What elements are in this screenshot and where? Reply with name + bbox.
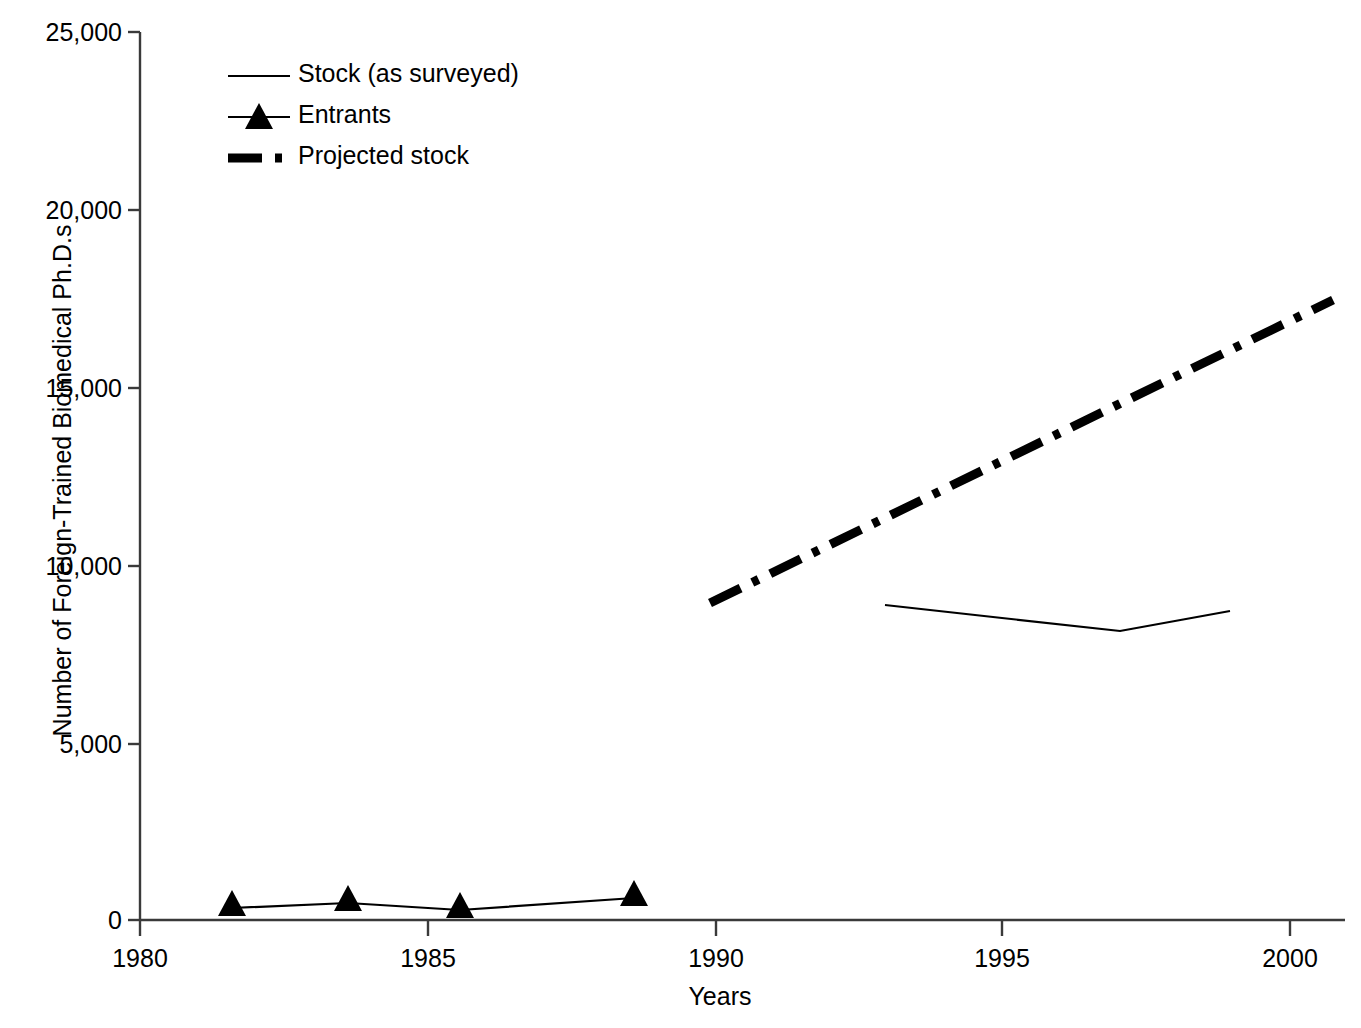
y-tick-label-0: 0	[0, 906, 122, 935]
plot-area	[0, 0, 1361, 1028]
thin-line-key	[226, 56, 292, 96]
triangle-marker-key	[226, 97, 292, 137]
legend-label-entrants: Entrants	[298, 100, 391, 129]
x-axis-title: Years	[560, 982, 880, 1011]
series-stock-line	[885, 605, 1230, 631]
series-projected-stock-line	[710, 300, 1333, 603]
legend-item-projected-stock: Projected stock	[226, 138, 626, 179]
x-tick-label-1995: 1995	[942, 944, 1062, 973]
legend-label-projected-stock: Projected stock	[298, 141, 469, 170]
x-tick-label-1985: 1985	[368, 944, 488, 973]
series-entrants-markers	[218, 880, 648, 918]
x-tick-marks	[140, 920, 1290, 936]
series-entrants-line	[232, 898, 634, 910]
legend-item-entrants: Entrants	[226, 97, 626, 138]
chart-legend: Stock (as surveyed) Entrants Projected s…	[226, 56, 626, 179]
legend-label-stock: Stock (as surveyed)	[298, 59, 519, 88]
chart-figure: 25,000 20,000 15,000 10,000 5,000 0 1980…	[0, 0, 1361, 1028]
dash-dot-key	[226, 138, 292, 178]
y-tick-label-25000: 25,000	[0, 18, 122, 47]
y-tick-marks	[128, 32, 140, 920]
x-tick-label-2000: 2000	[1230, 944, 1350, 973]
y-axis-title: Number of Foreign-Trained Biomedical Ph.…	[48, 161, 77, 801]
x-tick-label-1990: 1990	[656, 944, 776, 973]
x-tick-label-1980: 1980	[80, 944, 200, 973]
legend-item-stock: Stock (as surveyed)	[226, 56, 626, 97]
